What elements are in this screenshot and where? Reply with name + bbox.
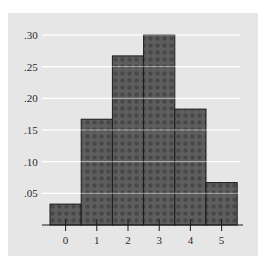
bar-5	[206, 183, 237, 225]
x-tick-label: 0	[63, 234, 69, 246]
y-tick-label: .30	[24, 29, 38, 41]
y-tick-label: .05	[24, 187, 38, 199]
bar-4	[175, 109, 206, 225]
x-tick-label: 3	[156, 234, 162, 246]
x-axis-labels: 012345	[63, 234, 225, 246]
bar-1	[81, 119, 112, 225]
x-tick-label: 2	[125, 234, 131, 246]
y-axis-labels: .05.10.15.20.25.30	[24, 29, 38, 199]
y-tick-label: .15	[24, 124, 38, 136]
y-tick-label: .10	[24, 156, 38, 168]
y-tick-label: .20	[24, 92, 38, 104]
y-tick-label: .25	[24, 61, 38, 73]
x-tick-label: 1	[94, 234, 100, 246]
x-tick-label: 4	[188, 234, 194, 246]
x-tick-label: 5	[219, 234, 225, 246]
bar-2	[112, 56, 143, 225]
histogram-chart: .05.10.15.20.25.30 012345	[0, 0, 262, 264]
